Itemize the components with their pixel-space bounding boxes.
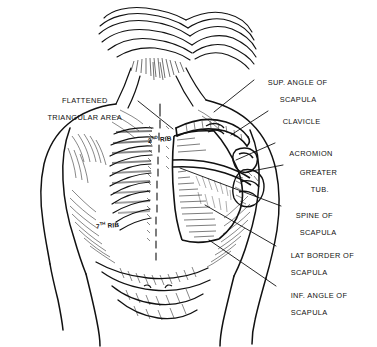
infraspinous-fossa-hatch xyxy=(196,176,231,212)
rib-word: RIB xyxy=(158,134,172,142)
scapula-shading xyxy=(177,138,216,237)
label-line-1: INF. ANGLE OF xyxy=(291,291,348,300)
label-greater-tub: GREATER TUB. xyxy=(290,160,337,203)
label-line-2: SCAPULA xyxy=(291,308,328,317)
label-sup-angle-of-scapula: SUP. ANGLE OF SCAPULA xyxy=(258,70,328,113)
scapula-body xyxy=(173,131,252,242)
label-line-2: SCAPULA xyxy=(268,96,317,105)
label-inf-angle-of-scapula: INF. ANGLE OF SCAPULA xyxy=(281,283,347,326)
label-line-2: TRIANGULAR AREA xyxy=(47,113,122,122)
label-line-1: SUP. ANGLE OF xyxy=(268,78,328,87)
label-line-1: LAT BORDER OF xyxy=(291,251,354,260)
label-line-1: SPINE OF xyxy=(296,211,333,220)
label-clavicle: CLAVICLE xyxy=(273,109,321,135)
label-line-1: CLAVICLE xyxy=(283,117,321,126)
rib-word: RIB xyxy=(105,221,119,229)
hair-mass xyxy=(99,7,256,69)
lower-back-contours xyxy=(96,262,210,319)
sacral-dimples xyxy=(144,285,172,288)
label-line-1: GREATER xyxy=(300,168,338,177)
label-line-2: SCAPULA xyxy=(296,229,337,238)
label-line-2: SCAPULA xyxy=(291,268,328,277)
label-line-2: TUB. xyxy=(300,186,329,195)
label-seventh-rib: 7TH RIB xyxy=(87,213,120,237)
label-flattened-triangular-area: FLATTENED TRIANGULAR AREA xyxy=(20,88,140,131)
anatomical-plate: SUP. ANGLE OF SCAPULA CLAVICLE ACROMION … xyxy=(0,0,377,347)
label-second-rib: 2ND RIB xyxy=(139,126,173,151)
label-line-1: ACROMION xyxy=(289,149,332,158)
left-deltoid-hatching xyxy=(68,134,106,183)
humeral-head-hatch xyxy=(235,172,258,204)
label-lat-border-of-scapula: LAT BORDER OF SCAPULA xyxy=(281,243,354,286)
label-spine-of-scapula: SPINE OF SCAPULA xyxy=(286,203,337,246)
label-line-1: FLATTENED xyxy=(62,96,108,105)
